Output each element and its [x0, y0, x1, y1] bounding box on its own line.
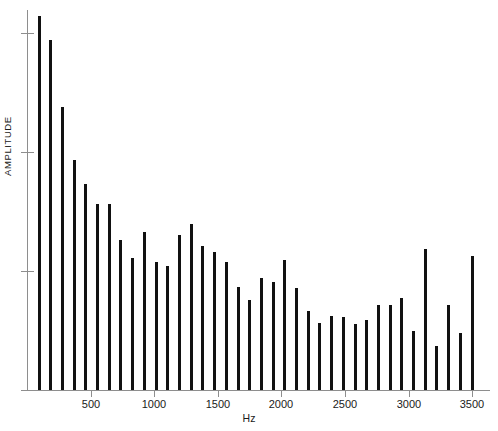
spectrum-bar	[307, 311, 310, 390]
spectrum-bar	[471, 256, 474, 390]
spectrum-bar	[342, 317, 345, 390]
spectrum-bar	[377, 305, 380, 390]
spectrum-bar	[459, 333, 462, 390]
spectrum-bar	[225, 262, 228, 390]
spectrum-bar	[354, 324, 357, 390]
spectrum-bar	[61, 107, 64, 390]
spectrum-bar	[389, 305, 392, 390]
spectrum-bar	[201, 246, 204, 390]
spectrum-bar	[237, 287, 240, 390]
spectrum-bar	[119, 240, 122, 390]
spectrum-bar	[190, 224, 193, 390]
spectrum-bar	[412, 331, 415, 390]
spectrum-bar	[295, 288, 298, 390]
spectrum-bar	[155, 262, 158, 390]
spectrum-bar	[318, 323, 321, 390]
spectrum-figure: AMPLITUDE 500100015002000250030003500 Hz	[0, 0, 498, 431]
spectrum-bar	[365, 320, 368, 390]
spectrum-bar	[166, 266, 169, 390]
spectrum-bars	[0, 0, 498, 431]
spectrum-bar	[248, 300, 251, 390]
spectrum-bar	[108, 204, 111, 390]
spectrum-bar	[400, 298, 403, 390]
spectrum-bar	[330, 316, 333, 390]
spectrum-bar	[435, 346, 438, 390]
spectrum-bar	[178, 235, 181, 390]
spectrum-bar	[213, 252, 216, 390]
spectrum-bar	[447, 305, 450, 390]
spectrum-bar	[272, 282, 275, 390]
spectrum-bar	[73, 160, 76, 390]
spectrum-bar	[283, 260, 286, 390]
spectrum-bar	[38, 16, 41, 390]
spectrum-bar	[96, 204, 99, 390]
spectrum-bar	[260, 278, 263, 390]
spectrum-bar	[143, 232, 146, 390]
spectrum-bar	[131, 258, 134, 390]
spectrum-bar	[424, 249, 427, 390]
spectrum-bar	[84, 184, 87, 390]
spectrum-bar	[49, 40, 52, 390]
